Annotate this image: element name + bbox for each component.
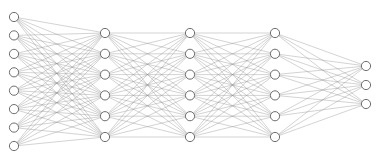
- network-edge: [14, 72, 105, 74]
- network-edge: [14, 95, 105, 127]
- network-edge: [14, 72, 105, 116]
- network-node-input-layer-5: [9, 86, 18, 95]
- network-node-output-layer-1: [361, 61, 370, 70]
- neural-network-diagram: [0, 0, 378, 166]
- network-node-input-layer-2: [9, 31, 18, 40]
- network-node-hidden-layer-1-1: [100, 28, 109, 37]
- network-node-hidden-layer-2-1: [185, 28, 194, 37]
- network-node-hidden-layer-3-2: [270, 49, 279, 58]
- network-node-input-layer-1: [9, 12, 18, 21]
- network-node-input-layer-6: [9, 105, 18, 114]
- network-node-hidden-layer-2-5: [185, 112, 194, 121]
- network-node-hidden-layer-3-4: [270, 91, 279, 100]
- network-edge: [275, 33, 366, 66]
- network-node-hidden-layer-2-4: [185, 91, 194, 100]
- network-node-hidden-layer-3-1: [270, 28, 279, 37]
- network-edge: [275, 85, 366, 116]
- network-node-input-layer-8: [9, 141, 18, 150]
- network-edge: [14, 17, 105, 75]
- network-node-hidden-layer-2-2: [185, 49, 194, 58]
- network-node-hidden-layer-2-3: [185, 70, 194, 79]
- network-edge: [14, 17, 105, 54]
- network-edge: [275, 54, 366, 66]
- network-edge: [14, 33, 105, 146]
- network-node-hidden-layer-1-2: [100, 49, 109, 58]
- network-edge: [14, 33, 105, 35]
- network-edge: [14, 33, 105, 54]
- network-node-hidden-layer-1-6: [100, 132, 109, 141]
- network-edge: [275, 104, 366, 116]
- network-node-hidden-layer-1-4: [100, 91, 109, 100]
- network-edge: [275, 85, 366, 95]
- network-node-input-layer-3: [9, 49, 18, 58]
- network-edge: [275, 75, 366, 85]
- network-node-output-layer-3: [361, 99, 370, 108]
- network-edge: [14, 33, 105, 128]
- network-edge: [275, 85, 366, 137]
- network-edge: [14, 54, 105, 75]
- network-edge: [275, 104, 366, 137]
- network-node-hidden-layer-3-5: [270, 112, 279, 121]
- network-node-hidden-layer-1-3: [100, 70, 109, 79]
- network-node-hidden-layer-1-5: [100, 112, 109, 121]
- network-node-input-layer-4: [9, 68, 18, 77]
- network-edge: [275, 33, 366, 104]
- network-canvas: [0, 0, 378, 166]
- network-node-hidden-layer-3-3: [270, 70, 279, 79]
- network-edge: [275, 54, 366, 85]
- network-node-output-layer-2: [361, 80, 370, 89]
- network-edge: [14, 17, 105, 33]
- network-edge: [14, 35, 105, 74]
- network-node-hidden-layer-3-6: [270, 132, 279, 141]
- network-edge: [275, 33, 366, 85]
- network-edge: [14, 54, 105, 128]
- network-node-hidden-layer-2-6: [185, 132, 194, 141]
- network-edge: [275, 66, 366, 137]
- network-node-input-layer-7: [9, 123, 18, 132]
